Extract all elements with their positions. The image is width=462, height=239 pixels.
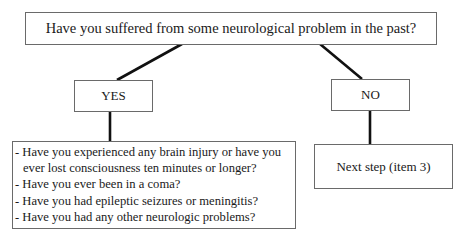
followup-question: - Have you had any other neurologic prob…	[15, 209, 295, 225]
next-step-node: Next step (item 3)	[314, 144, 453, 189]
followup-questions-node: - Have you experienced any brain injury …	[12, 141, 296, 229]
followup-question-continued: ever lost consciousness ten minutes or l…	[15, 160, 295, 176]
next-step-text: Next step (item 3)	[336, 159, 430, 175]
question-node: Have you suffered from some neurological…	[25, 12, 437, 45]
yes-label: YES	[101, 88, 126, 104]
no-label: NO	[361, 87, 380, 103]
no-node: NO	[331, 79, 410, 111]
connector-question-to-no	[320, 44, 362, 79]
followup-question: - Have you experienced any brain injury …	[15, 144, 295, 160]
followup-question: - Have you had epileptic seizures or men…	[15, 193, 295, 209]
yes-node: YES	[74, 80, 153, 112]
connector-question-to-yes	[117, 44, 182, 80]
question-text: Have you suffered from some neurological…	[46, 20, 417, 37]
followup-question: - Have you ever been in a coma?	[15, 176, 295, 192]
